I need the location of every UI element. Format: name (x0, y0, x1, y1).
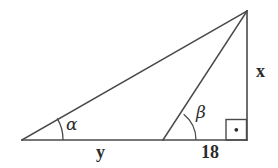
angle-label-alpha: α (66, 116, 77, 133)
segment-hypotenuse-long (22, 11, 247, 140)
figure-canvas (0, 0, 278, 168)
geometry-figure: α β x y 18 (0, 0, 278, 168)
alpha-arc-icon (57, 118, 63, 140)
beta-arc-icon (184, 114, 196, 140)
right-angle-dot-icon (234, 128, 238, 132)
side-label-x: x (256, 62, 265, 80)
side-label-18: 18 (201, 143, 219, 161)
side-label-y: y (96, 143, 105, 161)
angle-label-beta: β (196, 104, 206, 121)
